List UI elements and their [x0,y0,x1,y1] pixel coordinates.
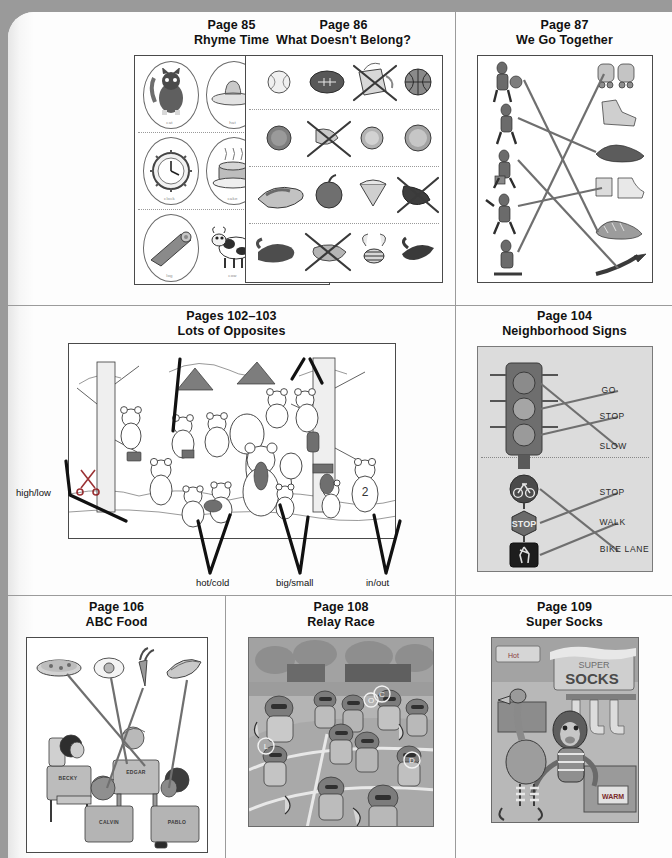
page-104-worksheet: STOP [477,346,653,572]
cell-page-104: Page 104 Neighborhood Signs [457,309,672,595]
answer-key-page: Page 85 Rhyme Time cat [8,12,672,858]
cell-page-106: Page 106 ABC Food [8,600,225,858]
letter-O: O [368,696,374,705]
pizza-icon [37,660,81,676]
sign-hot: Hot [508,652,519,659]
svg-text:STOP: STOP [511,519,535,529]
skier-icon [494,240,522,274]
page-86-art [246,56,443,283]
rhyme-caption: log [143,273,197,278]
closed-item [182,450,194,458]
small-bear [276,484,294,519]
label-high-low: high/low [16,487,51,498]
page-106-heading: Page 106 ABC Food [8,600,225,631]
egg-icon [94,658,124,678]
in-out-prop [313,464,333,473]
bike-route-sign-icon [510,475,538,509]
grid-vrule-mid [455,305,456,595]
grid-vrule-bot-1 [225,595,226,858]
cell-pages-102-103: Pages 102–103 Lots of Opposites closed/o… [8,309,455,595]
page-108-heading: Page 108 Relay Race [227,600,455,631]
page-106-worksheet: BECKY EDGAR CALVIN PABLO [26,637,208,853]
rhyme-caption: clock [143,196,197,201]
sad-bear-prop [307,432,319,452]
page-109-heading: Page 109 Super Socks [457,600,672,631]
desk-name-calvin: CALVIN [98,819,118,825]
stop-sign-icon: STOP [511,511,535,542]
sign-match-lines [540,383,618,555]
cell-page-108: Page 108 Relay Race [227,600,455,858]
desk-name-pablo: PABLO [167,819,186,825]
sign-label-walk: WALK [600,517,626,527]
desk-name-edgar: EDGAR [126,769,146,775]
balloon-small [280,453,302,479]
grid-hrule-1 [8,305,672,306]
cat-icon [149,68,193,120]
grid-vrule-bot-2 [455,595,456,858]
basketball-player-icon [494,62,522,102]
sign-label-stop-1: STOP [600,411,625,421]
cell-page-86: Page 86 What Doesn't Belong? [232,18,455,305]
letter-L: L [264,742,269,751]
letter-C: C [379,690,385,699]
gardener-icon [494,150,515,188]
high-basket [127,452,141,461]
svg-text:2: 2 [361,485,368,499]
label-hot-cold: hot/cold [196,577,229,588]
sign-label-bike-lane: BIKE LANE [600,545,650,555]
relay-race-art: L C D O [249,638,434,827]
cross-out-mark [308,122,350,156]
football-player-icon [497,104,516,144]
carrot-icon [139,648,154,686]
hiker-icon [486,194,515,234]
sign-label-stop-2: STOP [600,487,625,497]
letter-D: D [409,756,415,765]
opposites-scene: 2 [68,343,396,539]
in-prop [320,474,334,494]
log-icon [147,228,195,268]
answer-key-grid: Page 85 Rhyme Time cat [8,12,672,858]
page-87-worksheet [477,55,653,283]
box-warm: WARM [601,793,623,800]
dress-shoes-icon [596,145,644,162]
grid-hrule-2 [8,595,672,596]
desk-name-becky: BECKY [58,775,77,781]
sneakers-icon [596,221,642,239]
food-row [37,648,201,686]
page-104-art: STOP [478,347,653,572]
page-87-art [478,56,653,283]
label-in-out: in/out [366,577,389,588]
grid-vrule-top [455,12,456,305]
page-86-worksheet [245,55,443,283]
page-87-heading: Page 87 We Go Together [457,18,672,49]
work-boot-icon [602,100,636,126]
teddy-picnic-art: 2 [69,344,396,539]
sign-socks: SOCKS [565,670,618,687]
sign-label-slow: SLOW [600,441,627,451]
bananas-icon [167,659,201,678]
cold-prop [204,500,222,512]
label-big-small: big/small [276,577,314,588]
cell-page-87: Page 87 We Go Together [457,18,672,305]
bear-with-2: 2 [352,458,378,512]
page-86-heading: Page 86 What Doesn't Belong? [232,18,455,49]
super-socks-art: SUPER SOCKS Hot WARM [492,638,639,823]
rain-boots-icon [596,178,644,198]
big-prop [254,462,268,490]
page-108-photo: L C D O [248,637,434,827]
ski-icon [596,254,646,274]
traffic-light-icon [490,363,558,469]
page-109-photo: SUPER SOCKS Hot WARM [491,637,639,823]
clock-icon [149,146,193,196]
sign-super: SUPER [578,660,610,670]
rhyme-caption: cat [143,120,197,125]
pages-102-103-heading: Pages 102–103 Lots of Opposites [8,309,455,340]
pedestrian-crossing-sign-icon [510,543,538,567]
cell-page-109: Page 109 Super Socks SUPER SOCKS Hot [457,600,672,858]
page-104-heading: Page 104 Neighborhood Signs [457,309,672,340]
page-106-art: BECKY EDGAR CALVIN PABLO [27,638,208,853]
sign-label-go: GO [602,385,616,395]
